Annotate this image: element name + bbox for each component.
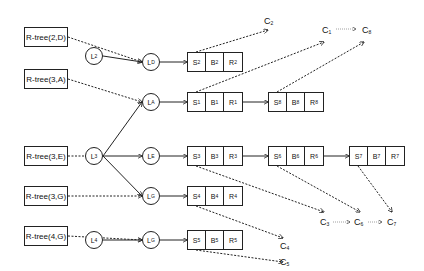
lnode-L4: L4 bbox=[85, 231, 103, 249]
cnode-C5: C5 bbox=[280, 257, 289, 269]
cnode-C7: C7 bbox=[387, 217, 396, 229]
lnode-LG: LG bbox=[142, 187, 160, 205]
rtree-4-G: R-tree(4,G) bbox=[24, 226, 68, 246]
cell-S1: S1 bbox=[188, 93, 206, 111]
edge-blk5-C5 bbox=[196, 250, 283, 262]
block-3: S3 B3 R3 bbox=[187, 146, 243, 166]
lnode-LE: LE bbox=[142, 147, 160, 165]
cell-B5: B5 bbox=[206, 231, 224, 249]
cell-R3: R3 bbox=[224, 147, 242, 165]
rtree-3-A: R-tree(3,A) bbox=[24, 69, 68, 89]
rtree-3-E: R-tree(3,E) bbox=[24, 146, 68, 166]
block-8: S8 B8 R8 bbox=[268, 92, 324, 112]
cell-B7: B7 bbox=[368, 147, 386, 165]
cell-R2: R2 bbox=[224, 53, 242, 71]
cnode-C1: C1 bbox=[322, 25, 331, 37]
block-1: S1 B1 R1 bbox=[187, 92, 243, 112]
edge-L3-LA bbox=[103, 102, 142, 156]
lnode-LG-2: LG bbox=[142, 231, 160, 249]
cell-S7: S7 bbox=[350, 147, 368, 165]
cnode-C4: C4 bbox=[280, 241, 289, 253]
cell-R4: R4 bbox=[224, 187, 242, 205]
cell-B2: B2 bbox=[206, 53, 224, 71]
edge-blk6-C6 bbox=[277, 166, 360, 212]
edge-rt4G-LG2 bbox=[68, 236, 142, 240]
cell-R5: R5 bbox=[224, 231, 242, 249]
block-7: S7 B7 R7 bbox=[349, 146, 405, 166]
cnode-C8: C8 bbox=[362, 25, 371, 37]
cell-R6: R6 bbox=[305, 147, 323, 165]
cell-S8: S8 bbox=[269, 93, 287, 111]
lnode-L3: L3 bbox=[85, 147, 103, 165]
cell-B1: B1 bbox=[206, 93, 224, 111]
cell-B6: B6 bbox=[287, 147, 305, 165]
edge-blk8-C8 bbox=[277, 42, 364, 92]
lnode-L2: L2 bbox=[85, 47, 103, 65]
cell-S5: S5 bbox=[188, 231, 206, 249]
lnode-LD: LD bbox=[142, 53, 160, 71]
cell-R7: R7 bbox=[386, 147, 404, 165]
edge-blk2-C2 bbox=[196, 30, 268, 52]
cnode-C3: C3 bbox=[320, 217, 329, 229]
lnode-LA: LA bbox=[142, 93, 160, 111]
block-6: S6 B6 R6 bbox=[268, 146, 324, 166]
cell-R1: R1 bbox=[224, 93, 242, 111]
cnode-C2: C2 bbox=[264, 16, 273, 28]
edge-L2-LD bbox=[103, 56, 142, 62]
edge-blk7-C7 bbox=[358, 166, 392, 212]
rtree-2-D: R-tree(2,D) bbox=[24, 27, 68, 47]
cell-S2: S2 bbox=[188, 53, 206, 71]
edge-rt2D-LD bbox=[68, 37, 142, 62]
cell-R8: R8 bbox=[305, 93, 323, 111]
cnode-C6: C6 bbox=[354, 217, 363, 229]
cell-B8: B8 bbox=[287, 93, 305, 111]
block-5: S5 B5 R5 bbox=[187, 230, 243, 250]
cell-S4: S4 bbox=[188, 187, 206, 205]
block-2: S2 B2 R2 bbox=[187, 52, 243, 72]
edge-L3-LG bbox=[103, 156, 142, 196]
cell-S3: S3 bbox=[188, 147, 206, 165]
rtree-3-G: R-tree(3,G) bbox=[24, 186, 68, 206]
block-4: S4 B4 R4 bbox=[187, 186, 243, 206]
cell-B4: B4 bbox=[206, 187, 224, 205]
cell-B3: B3 bbox=[206, 147, 224, 165]
edge-rt3A-LA bbox=[68, 79, 142, 102]
cell-S6: S6 bbox=[269, 147, 287, 165]
